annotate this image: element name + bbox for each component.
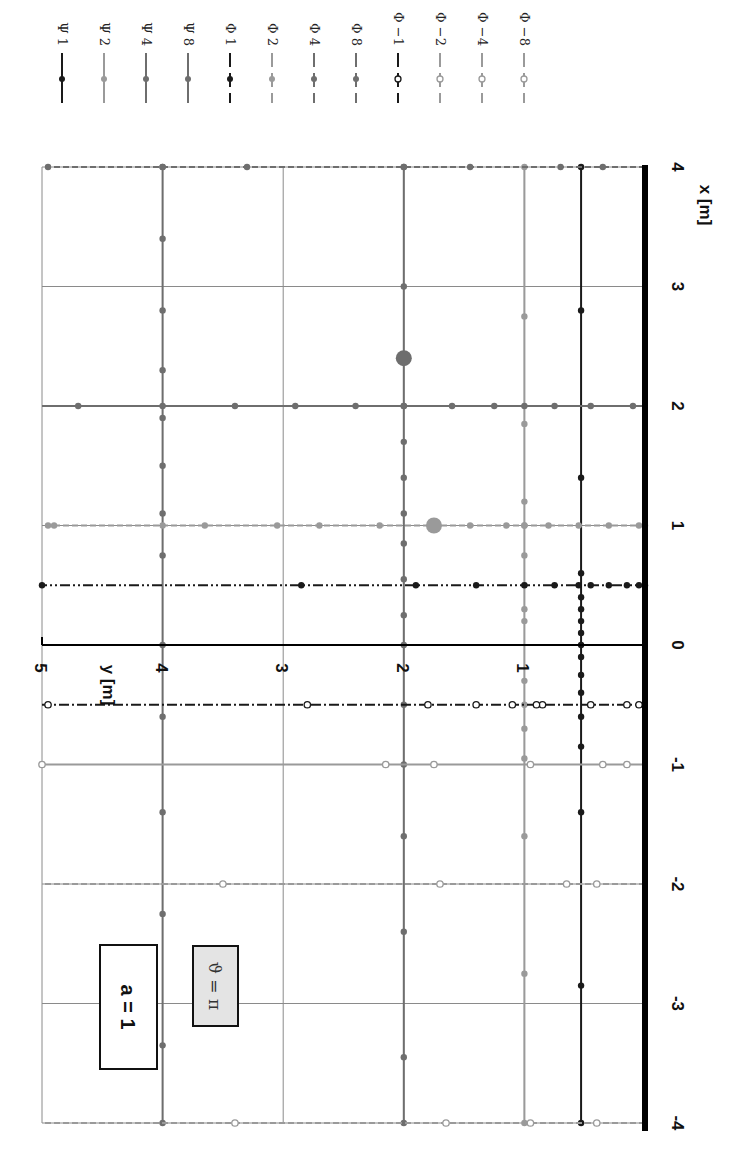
data-point	[159, 403, 165, 409]
data-point	[45, 164, 51, 170]
data-point	[578, 570, 584, 576]
data-point	[202, 522, 208, 528]
data-point	[401, 510, 407, 516]
data-point	[521, 725, 527, 731]
data-point	[563, 881, 569, 887]
data-point	[401, 475, 407, 481]
data-point	[600, 164, 606, 170]
data-point	[425, 702, 431, 708]
data-point	[624, 582, 630, 588]
data-point	[521, 755, 527, 761]
legend-marker	[269, 76, 275, 82]
legend: Ψ 1Ψ 2Ψ 4Ψ 8Φ 1Φ 2Φ 4Φ 8Φ −1Φ −2Φ −4Φ −8	[55, 12, 532, 103]
data-point	[401, 439, 407, 445]
x-tick-label: 1	[668, 521, 687, 530]
legend-label: Φ −4	[475, 12, 490, 46]
data-point	[220, 881, 226, 887]
data-point	[575, 582, 581, 588]
data-point	[244, 164, 250, 170]
data-point	[159, 463, 165, 469]
legend-label: Ψ 8	[181, 22, 196, 46]
data-point	[401, 164, 407, 170]
data-point	[401, 283, 407, 289]
data-point	[578, 714, 584, 720]
data-point	[401, 403, 407, 409]
y-tick-label: 4	[152, 663, 171, 673]
legend-marker	[185, 76, 191, 82]
data-point	[491, 403, 497, 409]
x-axis-label: x [m]	[696, 185, 715, 226]
legend-marker	[353, 76, 359, 82]
data-point	[401, 576, 407, 582]
data-point	[578, 475, 584, 481]
data-point	[557, 164, 563, 170]
legend-label: Φ 4	[307, 23, 322, 46]
data-point	[578, 743, 584, 749]
highlight-point	[396, 350, 412, 366]
data-point	[443, 1120, 449, 1126]
data-point	[575, 522, 581, 528]
data-point	[521, 552, 527, 558]
data-point	[503, 522, 509, 528]
data-point	[533, 702, 539, 708]
data-point	[578, 618, 584, 624]
data-point	[431, 761, 437, 767]
data-point	[473, 702, 479, 708]
data-point	[588, 702, 594, 708]
data-point	[383, 761, 389, 767]
data-point	[588, 582, 594, 588]
data-point	[578, 630, 584, 636]
y-axis-label: y [m]	[99, 665, 118, 706]
data-point	[232, 1120, 238, 1126]
data-point	[521, 606, 527, 612]
x-tick-label: 3	[668, 282, 687, 291]
data-point	[401, 540, 407, 546]
data-point	[352, 403, 358, 409]
x-tick-label: -3	[668, 996, 687, 1011]
y-tick-label: 1	[513, 663, 532, 672]
data-point	[232, 403, 238, 409]
data-point	[159, 809, 165, 815]
legend-label: Φ 8	[349, 23, 364, 46]
data-point	[551, 582, 557, 588]
data-point	[274, 522, 280, 528]
data-point	[594, 881, 600, 887]
data-point	[159, 522, 165, 528]
data-point	[304, 702, 310, 708]
data-point	[509, 702, 515, 708]
x-tick-label: -1	[668, 757, 687, 772]
data-point	[298, 582, 304, 588]
legend-label: Φ −2	[433, 12, 448, 46]
annotation-theta: ϑ = π	[193, 946, 238, 1026]
data-point	[159, 367, 165, 373]
data-point	[401, 929, 407, 935]
data-point	[578, 672, 584, 678]
data-point	[521, 313, 527, 319]
data-point	[578, 594, 584, 600]
data-point	[292, 403, 298, 409]
data-point	[473, 582, 479, 588]
data-point	[521, 678, 527, 684]
data-point	[159, 164, 165, 170]
data-point	[159, 911, 165, 917]
y-tick-label: 3	[272, 663, 291, 672]
legend-marker	[101, 76, 107, 82]
highlight-point	[426, 518, 442, 534]
data-point	[624, 702, 630, 708]
data-point	[521, 970, 527, 976]
data-point	[39, 582, 45, 588]
data-point	[521, 498, 527, 504]
data-point	[376, 522, 382, 528]
data-point	[159, 1042, 165, 1048]
legend-label: Φ −1	[391, 12, 406, 46]
legend-marker	[143, 76, 149, 82]
data-point	[606, 582, 612, 588]
data-point	[51, 522, 57, 528]
y-tick-label: 2	[393, 663, 412, 672]
data-point	[39, 761, 45, 767]
legend-marker	[521, 76, 527, 82]
legend-label: Ψ 4	[139, 22, 154, 46]
data-point	[45, 702, 51, 708]
x-tick-label: -4	[668, 1115, 687, 1131]
data-point	[521, 582, 527, 588]
